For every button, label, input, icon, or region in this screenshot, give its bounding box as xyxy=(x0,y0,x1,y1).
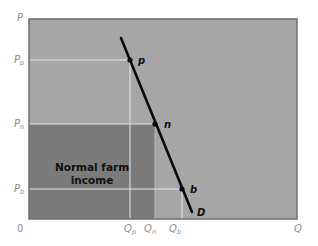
demand-chart: p n b D Normal farm income P Q 0 Pp Pn P… xyxy=(0,0,318,246)
x-tick-qp: Qp xyxy=(124,223,136,236)
y-tick-pn: Pn xyxy=(14,118,24,131)
point-p xyxy=(127,57,132,62)
x-tick-qb: Qb xyxy=(169,223,181,236)
label-point-n: n xyxy=(164,119,171,130)
label-demand-d: D xyxy=(197,207,205,218)
point-n xyxy=(152,121,157,126)
x-axis-label: Q xyxy=(294,223,302,234)
y-tick-pb: Pb xyxy=(14,183,24,196)
origin-label: 0 xyxy=(17,223,23,234)
area-label-line1: Normal farm xyxy=(55,161,129,173)
y-axis-label: P xyxy=(17,12,24,23)
point-b xyxy=(179,186,184,191)
y-tick-pp: Pp xyxy=(14,54,24,67)
label-point-p: p xyxy=(137,55,145,66)
x-tick-qn: Qn xyxy=(144,223,156,236)
area-label-line2: income xyxy=(71,174,114,186)
label-point-b: b xyxy=(190,184,197,195)
